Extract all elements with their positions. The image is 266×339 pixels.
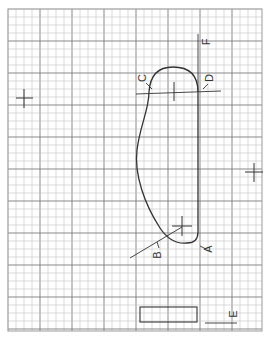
grid-paper [8, 9, 262, 331]
label-c: C [136, 74, 148, 82]
label-f: F [200, 38, 212, 45]
label-a: A [202, 245, 214, 253]
label-b: B [151, 251, 163, 258]
label-e: E [227, 310, 239, 317]
leader-b [157, 242, 159, 248]
pattern-diagram: C D F A B E [0, 0, 266, 339]
label-d: D [203, 74, 215, 82]
leader-d [203, 84, 208, 89]
label-box [140, 307, 197, 322]
